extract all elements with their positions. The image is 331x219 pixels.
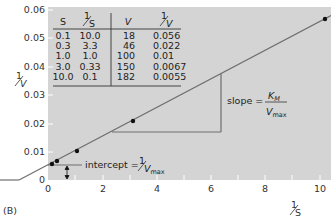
svg-text:0.05: 0.05	[24, 32, 45, 43]
x-tick-labels: 0 2 4 6 8 10	[45, 183, 326, 194]
svg-text:1.0: 1.0	[82, 50, 97, 61]
panel-label: (B)	[3, 205, 17, 216]
svg-text:0.02: 0.02	[24, 118, 45, 129]
svg-text:S: S	[60, 16, 66, 27]
svg-text:10.0: 10.0	[52, 71, 73, 82]
y-axis-label: 1 V	[15, 70, 28, 89]
data-point	[131, 119, 135, 123]
svg-text:0.1: 0.1	[82, 71, 97, 82]
svg-text:1.0: 1.0	[55, 50, 70, 61]
data-point	[75, 149, 79, 153]
svg-text:0.01: 0.01	[24, 146, 45, 157]
svg-text:2: 2	[100, 183, 106, 194]
data-point	[50, 162, 54, 166]
data-point	[323, 17, 327, 21]
svg-text:slope =: slope =	[227, 95, 263, 106]
lineweaver-burk-chart: 0 0.01 0.02 0.03 0.04 0.05 0.06 0 2 4 6 …	[0, 0, 331, 219]
data-point	[55, 159, 59, 163]
svg-text:10: 10	[314, 183, 326, 194]
svg-text:4: 4	[154, 183, 160, 194]
y-tick-labels: 0 0.01 0.02 0.03 0.04 0.05 0.06	[24, 4, 45, 185]
svg-text:S: S	[89, 18, 95, 29]
svg-text:intercept =: intercept =	[85, 159, 139, 170]
svg-text:S: S	[295, 207, 301, 218]
svg-text:100: 100	[117, 50, 135, 61]
svg-text:6: 6	[208, 183, 214, 194]
table-row: 10.0 0.1 182 0.0055	[52, 71, 186, 82]
svg-text:0.0055: 0.0055	[153, 71, 186, 82]
svg-text:8: 8	[262, 183, 268, 194]
svg-text:0.01: 0.01	[153, 50, 174, 61]
svg-text:0.06: 0.06	[24, 4, 45, 15]
svg-text:182: 182	[117, 71, 135, 82]
svg-text:0: 0	[45, 183, 51, 194]
svg-text:0.03: 0.03	[24, 89, 45, 100]
svg-text:V: V	[20, 78, 28, 89]
x-axis-label: 1 S	[290, 199, 301, 218]
svg-text:0.04: 0.04	[24, 61, 45, 72]
